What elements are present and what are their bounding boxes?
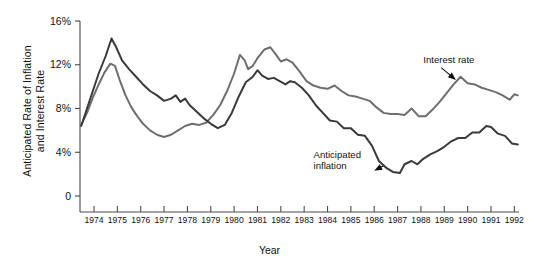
axis-lines xyxy=(80,21,519,212)
inflation-interest-rate-chart: Anticipated Rate of Inflation and Intere… xyxy=(0,0,539,266)
x-tick-label: 1987 xyxy=(388,215,407,225)
x-tick-label: 1989 xyxy=(435,215,454,225)
x-tick-label: 1988 xyxy=(411,215,430,225)
x-axis-title: Year xyxy=(0,244,539,256)
x-tick-label: 1985 xyxy=(341,215,360,225)
x-tick-label: 1979 xyxy=(201,215,220,225)
x-tick-label: 1984 xyxy=(318,215,337,225)
x-tick-label: 1990 xyxy=(458,215,477,225)
x-tick-label: 1976 xyxy=(131,215,150,225)
x-tick-label: 1983 xyxy=(295,215,314,225)
y-tick-label: 0 xyxy=(65,190,71,202)
y-tick-label: 4% xyxy=(56,146,71,158)
y-tick-label: 16% xyxy=(50,15,71,27)
x-tick-label: 1982 xyxy=(271,215,290,225)
annotation-label: Interest rate xyxy=(423,54,474,65)
x-tick-label: 1980 xyxy=(225,215,244,225)
x-tick-label: 1977 xyxy=(155,215,174,225)
y-axis-title: Anticipated Rate of Inflation and Intere… xyxy=(21,11,47,211)
chart-plot-area: 04%8%12%16% 1974197519761977197819791980… xyxy=(0,0,539,266)
x-axis-ticks: 1974197519761977197819791980198119821983… xyxy=(84,206,524,225)
y-tick-label: 12% xyxy=(50,58,71,70)
x-tick-label: 1986 xyxy=(365,215,384,225)
annotation-label: Anticipatedinflation xyxy=(314,149,361,171)
y-axis-ticks: 04%8%12%16% xyxy=(50,15,80,202)
annotation-arrowhead xyxy=(374,164,383,171)
y-tick-label: 8% xyxy=(56,102,71,114)
chart-annotations: Interest rateAnticipatedinflation xyxy=(314,54,475,171)
x-tick-label: 1975 xyxy=(108,215,127,225)
x-tick-label: 1991 xyxy=(481,215,500,225)
x-tick-label: 1974 xyxy=(84,215,103,225)
x-tick-label: 1992 xyxy=(505,215,524,225)
x-tick-label: 1978 xyxy=(178,215,197,225)
x-tick-label: 1981 xyxy=(248,215,267,225)
